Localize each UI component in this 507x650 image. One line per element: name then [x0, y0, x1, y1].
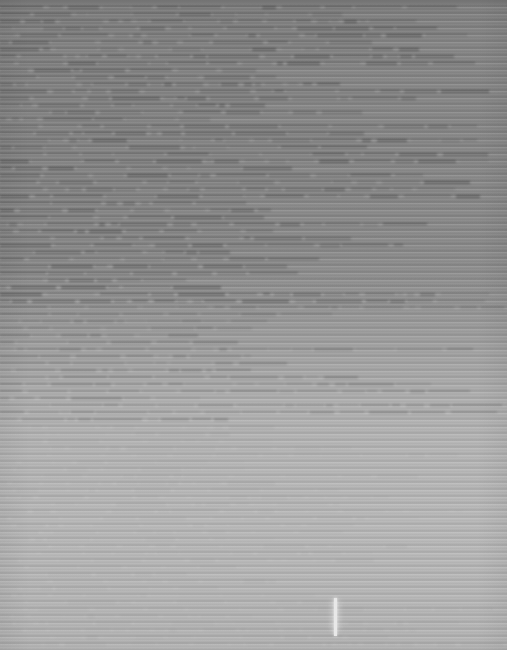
top-header-band — [0, 0, 507, 4]
text-cursor[interactable] — [334, 598, 337, 636]
screen-capture-root: Degraded screen capture Horizontally str… — [0, 0, 507, 650]
background-luminance-gradient — [0, 0, 507, 650]
